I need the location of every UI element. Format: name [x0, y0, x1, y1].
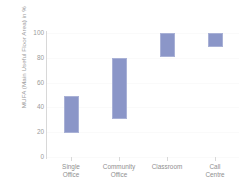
- y-tick-label: 80: [37, 55, 44, 61]
- bar-community-office[interactable]: [112, 58, 127, 119]
- x-category-label: Single Office: [62, 163, 80, 179]
- y-tick-label: 100: [33, 30, 44, 36]
- bar-classroom[interactable]: [160, 33, 175, 57]
- y-tick-label: 60: [37, 79, 44, 85]
- y-tick-label: 40: [37, 104, 44, 110]
- x-tick: [119, 157, 120, 161]
- y-axis-title: MUFA (Main Useful Floor Area) in %: [21, 0, 27, 122]
- x-category-label: Call Centre: [200, 163, 230, 179]
- range-bar-chart: MUFA (Main Useful Floor Area) in % 02040…: [0, 0, 245, 192]
- y-tick-label: 0: [40, 154, 44, 160]
- x-category-label: Community Office: [103, 163, 135, 179]
- x-tick: [71, 157, 72, 161]
- gridline: [47, 157, 239, 158]
- bar-single-office[interactable]: [64, 96, 79, 133]
- plot-area: 020406080100: [47, 33, 239, 157]
- bar-call-centre[interactable]: [208, 33, 223, 47]
- x-category-label: Classroom: [152, 163, 183, 171]
- gridline: [47, 83, 239, 84]
- gridline: [47, 58, 239, 59]
- x-tick: [167, 157, 168, 161]
- x-tick: [215, 157, 216, 161]
- y-tick-label: 20: [37, 129, 44, 135]
